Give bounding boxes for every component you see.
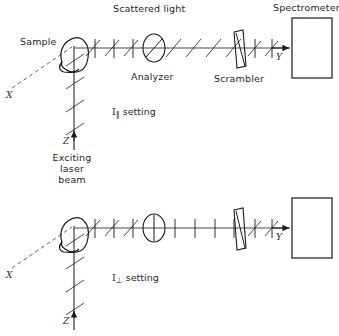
z-axis-hatches-top <box>66 54 84 135</box>
sample-blob-top <box>61 38 89 72</box>
scrambler-label: Scrambler <box>214 73 264 84</box>
z-axis-label-top: Z <box>63 136 69 147</box>
intensity-subscript-parallel: ∥ <box>116 110 120 119</box>
x-axis-label-bottom: X <box>6 270 13 281</box>
exciting-laser-line2: laser <box>40 163 104 174</box>
setting-label-perpendicular: I⊥ setting <box>112 272 159 285</box>
raman-polarization-figure: Sample Scattered light Analyzer Scramble… <box>0 0 339 336</box>
sample-label-top: Sample <box>20 36 57 47</box>
setting-label-parallel: I∥ setting <box>112 106 156 119</box>
intensity-subscript-perpendicular: ⊥ <box>116 276 123 285</box>
panel-parallel <box>12 18 332 150</box>
z-axis-hatches-bottom <box>66 234 84 315</box>
scattered-light-label: Scattered light <box>113 3 185 14</box>
panel-perpendicular <box>12 198 332 330</box>
exciting-laser-line3: beam <box>40 174 104 185</box>
sample-blob-bottom <box>61 218 89 252</box>
spectrometer-box-bottom <box>292 198 332 258</box>
exciting-laser-line1: Exciting <box>40 152 104 163</box>
x-axis-label-top: X <box>6 90 13 101</box>
analyzer-label: Analyzer <box>131 71 174 82</box>
spectrometer-box-top <box>292 18 332 78</box>
setting-word-parallel: setting <box>123 106 156 117</box>
spectrometer-label: Spectrometer <box>273 2 339 13</box>
setting-word-perpendicular: setting <box>126 272 159 283</box>
z-axis-label-bottom: Z <box>63 316 69 327</box>
y-axis-label-top: Y <box>276 52 282 63</box>
y-axis-label-bottom: Y <box>276 232 282 243</box>
